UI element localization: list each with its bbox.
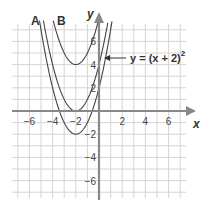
x-tick-label: 2 xyxy=(119,116,125,127)
y-tick-label: −2 xyxy=(85,129,97,140)
x-axis-arrow-icon xyxy=(186,106,196,116)
y-tick-label: −4 xyxy=(85,152,97,163)
equation-label: y = (x + 2)2 xyxy=(130,49,186,64)
x-tick-label: −2 xyxy=(70,116,82,127)
y-tick-label: 4 xyxy=(90,60,96,71)
parabola-graph: −6−4−2246 642−2−4−6 x y A B y = (x + 2)2 xyxy=(0,0,209,207)
x-axis-label: x xyxy=(192,117,201,131)
x-tick-label: −6 xyxy=(24,116,36,127)
y-axis-label: y xyxy=(86,7,95,21)
y-axis-arrow-icon xyxy=(94,12,104,23)
y-tick-label: −6 xyxy=(85,176,97,187)
curve-a-label: A xyxy=(31,14,40,28)
y-tick-label: 6 xyxy=(90,36,96,47)
x-tick-label: −4 xyxy=(47,116,59,127)
x-tick-label: 6 xyxy=(166,116,172,127)
x-tick-label: 4 xyxy=(143,116,149,127)
curve-b-label: B xyxy=(57,14,66,28)
y-tick-label: 2 xyxy=(90,83,96,94)
x-tick-labels: −6−4−2246 xyxy=(24,116,172,127)
